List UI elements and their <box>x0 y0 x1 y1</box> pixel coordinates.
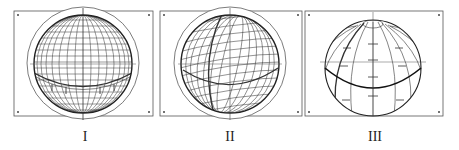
panel-1 <box>14 7 153 120</box>
panel-2 <box>160 6 302 122</box>
panel-label-2: II <box>225 129 234 145</box>
panel-3 <box>305 11 443 116</box>
panel-label-1: I <box>83 129 88 145</box>
globe-projection-figure <box>0 0 459 150</box>
panel-label-3: III <box>368 129 382 145</box>
